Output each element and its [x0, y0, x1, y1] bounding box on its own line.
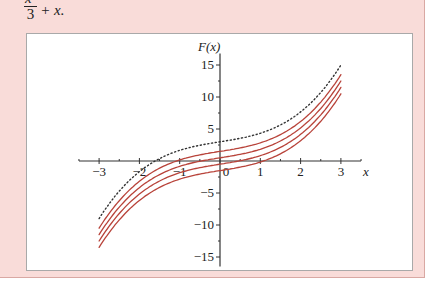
figure-panel: x³ 3 + x. −3−2−10123−15−10−551015xF(x): [0, 0, 425, 278]
x-tick-label: −3: [92, 164, 106, 179]
y-tick-label: −15: [194, 249, 214, 264]
chart-svg: −3−2−10123−15−10−551015xF(x): [27, 34, 414, 272]
y-tick-label: 15: [201, 57, 214, 72]
formula-caption: x³ 3 + x.: [24, 0, 64, 22]
x-tick-label: 1: [257, 164, 264, 179]
plot-area: −3−2−10123−15−10−551015xF(x): [26, 33, 413, 271]
y-tick-label: −5: [200, 185, 214, 200]
y-axis-label: F(x): [197, 39, 220, 54]
formula-denominator: 3: [27, 7, 35, 22]
x-axis-label: x: [362, 164, 369, 179]
x-tick-label: 0: [223, 164, 230, 179]
y-tick-label: −10: [194, 217, 214, 232]
x-tick-label: 3: [338, 164, 345, 179]
y-tick-label: 5: [208, 121, 215, 136]
fraction: x³ 3: [24, 0, 37, 22]
y-tick-label: 10: [201, 89, 214, 104]
x-tick-label: 2: [297, 164, 304, 179]
formula-rest: + x.: [40, 2, 64, 19]
